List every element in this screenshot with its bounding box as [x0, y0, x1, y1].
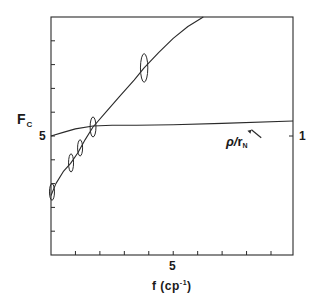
chart-canvas — [0, 0, 315, 302]
rho-over-rn-annotation: ρ/rN — [226, 134, 248, 149]
x-axis-label: f (cp-1) — [152, 279, 192, 293]
arrow-head-icon — [247, 130, 251, 134]
y-tick-label-5: 5 — [39, 129, 46, 143]
annotation-arrow — [247, 130, 261, 138]
curve-line — [51, 17, 203, 196]
data-series — [49, 17, 293, 200]
arrow-shaft — [251, 130, 261, 138]
axis-ticks — [51, 41, 293, 255]
y-axis-label: FC — [17, 111, 32, 129]
right-y-tick-label-1: 1 — [299, 129, 306, 143]
x-tick-label-5: 5 — [169, 259, 176, 273]
